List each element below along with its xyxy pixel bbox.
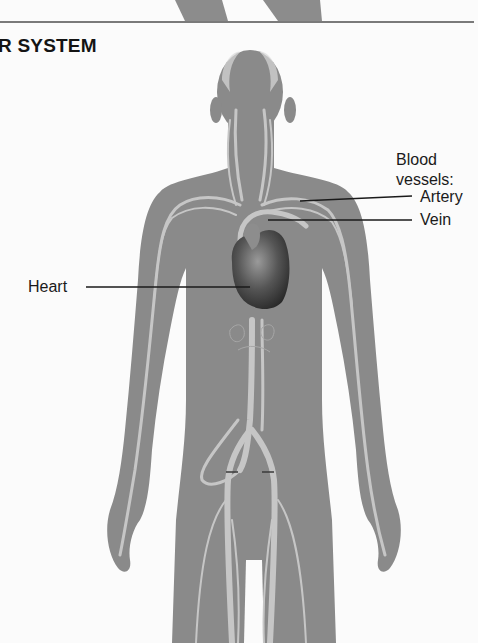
leg-gap	[244, 560, 264, 643]
artery-label: Artery	[420, 187, 463, 206]
vein-label: Vein	[420, 210, 451, 229]
heart-label: Heart	[28, 277, 67, 296]
body-illustration	[0, 0, 478, 643]
previous-figure-legs	[175, 0, 322, 21]
section-divider	[0, 21, 474, 23]
circulatory-system-figure: R SYSTEM Blood vessels: Artery Vein Hear…	[0, 0, 478, 643]
figure-title: R SYSTEM	[0, 35, 97, 57]
legend-heading-line1: Blood	[396, 150, 437, 169]
